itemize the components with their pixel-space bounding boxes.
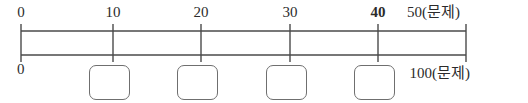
number-line-diagram: 0 10 20 30 40 50(문제) 0 100(문제) — [0, 0, 528, 103]
bottom-axis-label-0: 0 — [17, 62, 25, 77]
top-tick-label-30: 30 — [283, 5, 298, 20]
top-tick-label-20: 20 — [194, 5, 209, 20]
bottom-axis-label-100-unit: 100(문제) — [410, 66, 471, 81]
top-tick-label-10: 10 — [106, 5, 121, 20]
top-tick-label-0: 0 — [17, 5, 25, 20]
answer-box-3[interactable] — [266, 65, 307, 100]
tick-marks-group — [21, 24, 466, 62]
answer-box-4[interactable] — [354, 65, 395, 100]
answer-box-1[interactable] — [89, 65, 130, 100]
answer-box-2[interactable] — [177, 65, 218, 100]
top-tick-label-40: 40 — [371, 5, 386, 20]
top-tick-label-50-unit: 50(문제) — [407, 5, 460, 20]
